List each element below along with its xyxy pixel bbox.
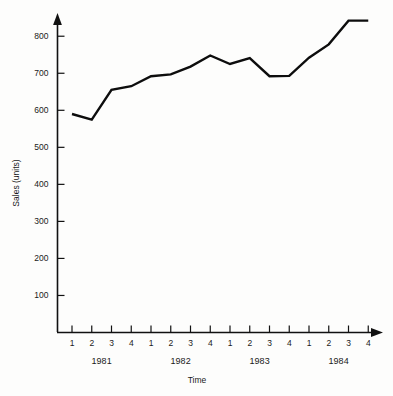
x-axis-year-labels: 1981198219831984 (92, 356, 349, 366)
y-axis-arrowhead (53, 13, 62, 25)
x-tick-label: 3 (109, 338, 114, 348)
x-tick-label: 3 (188, 338, 193, 348)
y-axis (53, 13, 62, 332)
x-tick-label: 4 (208, 338, 213, 348)
x-tick-label: 2 (326, 338, 331, 348)
chart-canvas: 100200300400500600700800 123412341234123… (0, 0, 393, 396)
x-tick-label: 1 (228, 338, 233, 348)
y-tick-label: 100 (34, 290, 48, 300)
x-axis-year-label: 1984 (329, 356, 349, 366)
x-tick-label: 3 (346, 338, 351, 348)
y-axis-title: Sales (units) (11, 159, 21, 206)
x-tick-label: 2 (168, 338, 173, 348)
x-axis-year-label: 1981 (92, 356, 112, 366)
x-tick-label: 2 (247, 338, 252, 348)
x-axis-title: Time (188, 375, 207, 385)
x-axis-arrowhead (371, 328, 383, 337)
x-axis (57, 328, 383, 337)
x-tick-label: 1 (307, 338, 312, 348)
x-tick-label: 4 (366, 338, 371, 348)
y-tick-label: 400 (34, 179, 48, 189)
x-axis-year-label: 1983 (250, 356, 270, 366)
sales-line (72, 21, 368, 120)
x-axis-year-label: 1982 (171, 356, 191, 366)
y-axis-ticks: 100200300400500600700800 (34, 31, 64, 300)
y-tick-label: 200 (34, 253, 48, 263)
x-tick-label: 3 (267, 338, 272, 348)
x-tick-label: 4 (129, 338, 134, 348)
y-tick-label: 600 (34, 105, 48, 115)
y-tick-label: 700 (34, 68, 48, 78)
y-tick-label: 300 (34, 216, 48, 226)
sales-time-line-chart: 100200300400500600700800 123412341234123… (0, 0, 393, 396)
x-tick-label: 2 (89, 338, 94, 348)
x-tick-label: 1 (149, 338, 154, 348)
x-axis-ticks: 1234123412341234 (70, 326, 371, 348)
y-tick-label: 500 (34, 142, 48, 152)
y-tick-label: 800 (34, 31, 48, 41)
x-tick-label: 1 (70, 338, 75, 348)
x-tick-label: 4 (287, 338, 292, 348)
data-series-group (72, 21, 368, 120)
